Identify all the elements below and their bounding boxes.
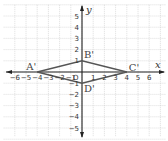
y-tick-label: 5 [75,13,79,21]
y-axis-up-arrow-icon [80,5,84,11]
x-tick-label: 2 [102,74,106,82]
x-tick-label: −4 [32,74,43,82]
x-tick-label: 1 [91,74,95,82]
point-label: D' [84,83,95,94]
x-axis-label: x [155,59,161,70]
x-tick-label: −5 [21,74,31,82]
point-label: C' [129,62,139,73]
y-tick-label: 2 [75,46,79,54]
y-axis-down-arrow-icon [80,132,84,138]
coordinate-plane: −6−5−4−3−2−112345654321−1−2−3−4−5O xyA'B… [0,0,168,141]
y-tick-label: −4 [69,113,80,121]
x-tick-label: −3 [43,74,53,82]
y-tick-label: −5 [69,125,79,133]
y-tick-label: 1 [75,57,79,65]
y-tick-label: 3 [75,35,79,43]
x-tick-label: 4 [125,74,130,82]
y-axis-label: y [85,4,92,15]
x-tick-label: −2 [54,74,64,82]
y-tick-label: 4 [75,24,80,32]
x-tick-label: 3 [113,74,117,82]
point-label: A' [25,61,36,72]
point-label: B' [84,49,94,60]
x-axis-right-arrow-icon [159,70,165,74]
y-tick-label: −2 [69,91,79,99]
y-tick-label: −3 [69,102,79,110]
origin-label: O [73,74,79,82]
x-tick-label: 6 [147,74,152,82]
x-tick-label: −6 [10,74,21,82]
x-tick-label: 5 [136,74,140,82]
